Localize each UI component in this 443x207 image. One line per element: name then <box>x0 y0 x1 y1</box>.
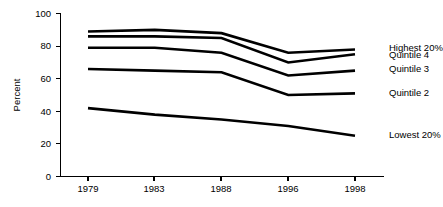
series-label-quintile-2: Quintile 2 <box>389 87 429 98</box>
x-axis-ticks <box>88 177 355 182</box>
series-line-quintile-4 <box>88 36 355 62</box>
y-tick-label-40: 40 <box>40 106 51 117</box>
chart-container: 0 20 40 60 80 100 1979 1983 1988 1996 19… <box>0 0 443 207</box>
y-tick-label-20: 20 <box>40 138 51 149</box>
series-label-lowest-20: Lowest 20% <box>389 129 441 140</box>
x-tick-label-1983: 1983 <box>143 183 164 194</box>
x-tick-label-1979: 1979 <box>77 183 98 194</box>
x-tick-label-1988: 1988 <box>210 183 231 194</box>
x-tick-label-1998: 1998 <box>344 183 365 194</box>
y-tick-label-60: 60 <box>40 73 51 84</box>
y-axis-ticks <box>56 14 61 177</box>
line-chart: 0 20 40 60 80 100 1979 1983 1988 1996 19… <box>0 0 443 207</box>
y-tick-label-0: 0 <box>46 171 51 182</box>
x-tick-label-1996: 1996 <box>277 183 298 194</box>
y-axis-title: Percent <box>11 78 22 111</box>
series-line-lowest-20 <box>88 108 355 136</box>
series-label-quintile-4: Quintile 4 <box>389 49 429 60</box>
series-label-quintile-3: Quintile 3 <box>389 63 429 74</box>
y-tick-label-80: 80 <box>40 40 51 51</box>
y-tick-label-100: 100 <box>35 8 51 19</box>
series-line-highest-20 <box>88 30 355 53</box>
